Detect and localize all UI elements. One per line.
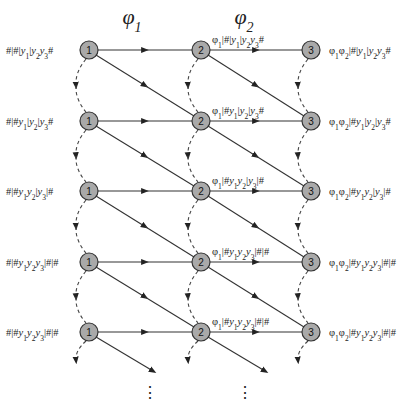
dashed-edge	[76, 297, 86, 323]
dashed-edge	[298, 86, 308, 113]
state-node-3: 3	[302, 182, 320, 200]
svg-text:2: 2	[198, 186, 204, 197]
dashed-edge	[76, 156, 86, 182]
dashed-transitions	[76, 59, 308, 361]
svg-text:2: 2	[198, 327, 204, 338]
dashed-edge	[76, 341, 86, 361]
diagonal-edge	[145, 297, 194, 327]
dashed-edge	[188, 59, 198, 86]
column-titles: φ1φ2	[122, 4, 253, 35]
state-transition-diagram: φ1φ2 123123123123123 #|#|y1|y2y3#φ1|#|y1…	[0, 0, 412, 410]
left-string-label: #|#y1y2y3|#|#	[6, 327, 59, 343]
state-node-3: 3	[302, 112, 320, 130]
dashed-edge	[76, 86, 86, 113]
state-node-2: 2	[192, 253, 210, 271]
diagonal-edge	[96, 196, 145, 227]
dashed-edge	[188, 156, 198, 182]
dashed-edge	[188, 271, 198, 297]
dashed-edge	[76, 227, 86, 254]
state-node-3: 3	[302, 323, 320, 341]
state-node-2: 2	[192, 182, 210, 200]
svg-text:1: 1	[86, 257, 92, 268]
dashed-edge	[298, 156, 308, 182]
svg-text:1: 1	[86, 116, 92, 127]
dashed-edge	[188, 130, 198, 156]
svg-text:3: 3	[308, 257, 314, 268]
right-string-label: φ1φ2|#y1y2y3|#|#	[329, 257, 397, 273]
state-node-1: 1	[80, 112, 98, 130]
mid-string-label: φ1|#y1|y2|y3#	[212, 105, 265, 121]
dashed-edge	[298, 200, 308, 227]
dashed-edge	[76, 271, 86, 297]
right-string-label: φ1φ2|#y1y2|y3|#	[329, 186, 391, 202]
svg-text:1: 1	[86, 327, 92, 338]
diagonal-edge	[145, 227, 194, 258]
diagonal-edge	[96, 126, 145, 156]
dashed-edge	[298, 341, 308, 361]
diagonal-edge	[208, 337, 265, 371]
diagonal-edge	[208, 196, 256, 227]
state-node-1: 1	[80, 323, 98, 341]
diagonal-edge	[145, 86, 194, 117]
diagonal-edge	[208, 55, 256, 86]
left-string-label: #|#y1y2y3|#|#	[6, 257, 59, 273]
dashed-edge	[298, 59, 308, 86]
svg-text:1: 1	[86, 45, 92, 56]
right-string-label: φ1φ2|#|y1|y2y3#	[329, 45, 391, 61]
svg-text:1: 1	[86, 186, 92, 197]
mid-string-label: φ1|#y1y2y3|#|#	[212, 246, 270, 262]
left-string-label: #|#y1y2|y3|#	[6, 186, 54, 202]
diagonal-edge	[96, 55, 145, 86]
state-node-2: 2	[192, 112, 210, 130]
dashed-edge	[298, 271, 308, 297]
continuation-dots: ⋮	[237, 384, 253, 401]
right-string-label: φ1φ2|#y1|y2|y3#	[329, 116, 391, 132]
state-node-2: 2	[192, 41, 210, 59]
diagonal-edge	[145, 156, 194, 186]
state-node-3: 3	[302, 41, 320, 59]
diagonal-edge	[96, 267, 145, 297]
svg-text:3: 3	[308, 45, 314, 56]
diagonal-edge	[96, 337, 153, 371]
left-string-label: #|#|y1|y2y3#	[6, 45, 54, 61]
mid-string-label: φ1|#y1y2y3|#|#	[212, 316, 270, 332]
column-title-1: φ1	[122, 4, 141, 35]
state-node-1: 1	[80, 253, 98, 271]
svg-text:2: 2	[198, 45, 204, 56]
right-string-label: φ1φ2|#y1y2y3|#|#	[329, 327, 397, 343]
dashed-edge	[76, 59, 86, 86]
diagonal-edge	[208, 267, 256, 297]
mid-string-label: φ1|#y1y2|y3|#	[212, 175, 265, 191]
dashed-edge	[298, 297, 308, 323]
state-node-3: 3	[302, 253, 320, 271]
svg-text:2: 2	[198, 116, 204, 127]
dashed-edge	[298, 227, 308, 254]
left-string-label: #|#y1|y2|y3#	[6, 116, 54, 132]
svg-text:2: 2	[198, 257, 204, 268]
continuation-dots: ⋮⋮	[142, 384, 253, 401]
mid-string-label: φ1|#|y1|y2y3#	[212, 34, 265, 50]
svg-text:3: 3	[308, 116, 314, 127]
svg-text:3: 3	[308, 327, 314, 338]
state-node-1: 1	[80, 41, 98, 59]
dashed-edge	[188, 297, 198, 323]
state-node-2: 2	[192, 323, 210, 341]
continuation-dots: ⋮	[142, 384, 158, 401]
state-node-1: 1	[80, 182, 98, 200]
column-title-2: φ2	[234, 4, 253, 35]
svg-text:3: 3	[308, 186, 314, 197]
dashed-edge	[188, 341, 198, 361]
dashed-edge	[76, 200, 86, 227]
dashed-edge	[76, 130, 86, 156]
dashed-edge	[188, 200, 198, 227]
dashed-edge	[188, 86, 198, 113]
diagonal-edge	[208, 126, 256, 156]
dashed-edge	[298, 130, 308, 156]
dashed-edge	[188, 227, 198, 254]
